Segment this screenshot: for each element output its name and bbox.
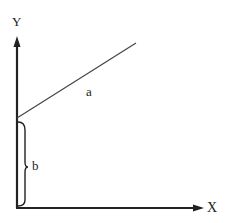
y-axis-label: Y [12, 15, 21, 28]
intercept-label: b [32, 159, 39, 172]
slope-label: a [86, 85, 92, 98]
diagram-canvas [0, 0, 226, 223]
slope-line [17, 43, 136, 118]
x-axis-arrow-icon [193, 205, 204, 212]
x-axis-label: X [207, 201, 217, 215]
y-axis-arrow-icon [14, 36, 21, 47]
intercept-brace [18, 122, 28, 206]
